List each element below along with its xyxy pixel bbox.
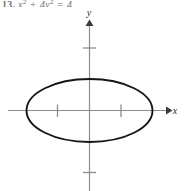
y-axis-arrow-icon bbox=[86, 20, 94, 27]
x-axis-arrow-icon bbox=[166, 107, 173, 115]
ellipse-plot: x y bbox=[0, 0, 186, 191]
y-axis-label: y bbox=[86, 7, 92, 18]
figure-container: 13.x2 + 4y2 = 4 x y bbox=[0, 0, 186, 191]
x-axis-label: x bbox=[172, 105, 178, 116]
